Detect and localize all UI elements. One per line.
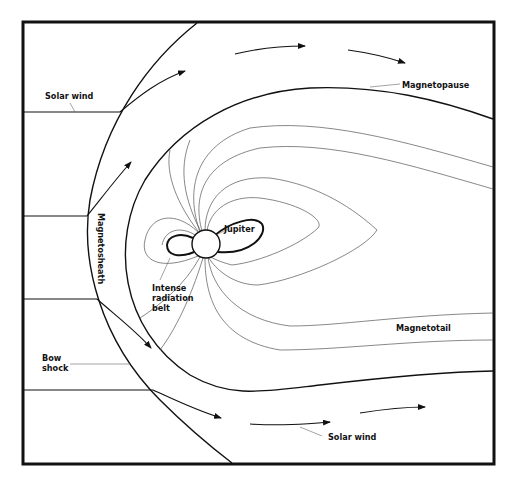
label-magnetotail: Magnetotail <box>396 323 451 333</box>
label-bow-shock-1: Bow <box>42 353 62 363</box>
label-leaders <box>70 84 400 436</box>
label-radiation-belt-2: radiation <box>152 293 194 303</box>
label-radiation-belt-1: Intense <box>152 283 187 293</box>
label-solar-wind-top: Solar wind <box>45 91 93 101</box>
magnetopause-curve <box>125 88 493 392</box>
magnetosphere-diagram: Solar wind Magnetopause Magnetosheath Ju… <box>0 0 513 484</box>
label-magnetosheath: Magnetosheath <box>96 213 106 284</box>
label-jupiter: Jupiter <box>223 224 255 234</box>
flow-arrows <box>87 46 425 425</box>
label-solar-wind-bottom: Solar wind <box>328 432 376 442</box>
jupiter-planet <box>192 230 220 258</box>
label-radiation-belt-3: belt <box>152 303 170 313</box>
label-bow-shock-2: shock <box>42 363 69 373</box>
label-magnetopause: Magnetopause <box>402 80 470 90</box>
